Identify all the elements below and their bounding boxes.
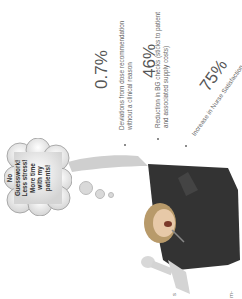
thought-line: No: [6, 146, 14, 210]
thought-line: Less stress!: [21, 146, 29, 210]
thought-line: with my: [36, 146, 44, 210]
stat-deviations-desc: Deviations from dose recommendation with…: [118, 21, 134, 130]
stat-bg-checks-desc: Reduction in BG checks (sticks to patien…: [154, 12, 170, 128]
thought-line: More time: [29, 146, 37, 210]
stat-deviations: 0.7%: [92, 50, 112, 89]
nurse-figure-image: [68, 150, 242, 299]
stat-desc-line2: without a clinical reason: [126, 21, 134, 130]
footer-mark-right: m-: [228, 291, 234, 298]
thought-line: Guesswork!: [14, 146, 22, 210]
stat-desc-line1: Reduction in BG checks (sticks to patien…: [154, 12, 162, 128]
footer-mark-left: s: [171, 293, 177, 296]
thought-line: patients!: [44, 146, 52, 210]
stat-desc-line1: Deviations from dose recommendation: [118, 21, 126, 130]
stat-value: 0.7%: [92, 50, 112, 89]
bullet-dot-2: [157, 138, 159, 140]
thought-text: No Guesswork! Less stress! More time wit…: [6, 146, 52, 210]
bullet-dot-3: [185, 145, 187, 147]
bullet-dot-1: [124, 144, 126, 146]
stat-desc-line2: and associated supply costs): [162, 12, 170, 128]
